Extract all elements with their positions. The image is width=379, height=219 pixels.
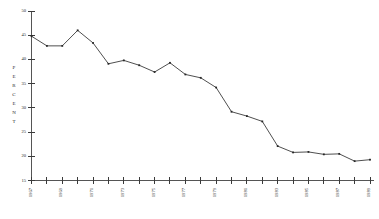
data-point-marker — [169, 62, 171, 64]
y-axis-title-char: E — [12, 101, 15, 106]
data-point-marker — [31, 35, 33, 37]
data-point-marker — [46, 45, 48, 47]
y-tick-label: 45 — [21, 32, 26, 37]
x-tick-label: 1987 — [335, 187, 340, 197]
x-tick-label: 1977 — [181, 187, 186, 197]
x-tick-label: 1973 — [120, 187, 125, 197]
chart-page: 1520253035404550 PERCENT 196719691971197… — [0, 0, 379, 219]
x-tick-label: 1981 — [243, 187, 248, 197]
data-point-marker — [261, 121, 263, 123]
x-tick-label: 1971 — [89, 187, 94, 197]
data-point-marker — [246, 115, 248, 117]
y-tick-label: 30 — [21, 105, 26, 110]
y-axis-title: PERCENT — [12, 65, 16, 124]
x-tick-label: 1967 — [28, 187, 33, 197]
data-point-marker — [338, 153, 340, 155]
data-point-marker — [200, 77, 202, 79]
y-axis-title-char: T — [12, 119, 15, 124]
y-axis-title-char: E — [12, 74, 15, 79]
x-tick-label: 1983 — [274, 187, 279, 197]
y-tick-label: 20 — [21, 153, 26, 158]
line-chart: 1520253035404550 PERCENT 196719691971197… — [0, 0, 379, 219]
data-point-marker — [231, 111, 233, 113]
x-tick-label: 1989 — [366, 187, 371, 197]
y-axis-title-char: R — [12, 83, 16, 88]
y-axis-title-char: P — [13, 65, 16, 70]
data-point-marker — [277, 145, 279, 147]
data-point-marker — [292, 152, 294, 154]
data-point-marker — [92, 42, 94, 44]
x-tick-label: 1975 — [151, 187, 156, 197]
y-tick-label: 40 — [21, 56, 26, 61]
y-tick-label: 15 — [21, 178, 26, 183]
data-point-marker — [154, 71, 156, 73]
x-axis-tick-labels: 1967196919711973197519771979198119831985… — [28, 187, 372, 197]
y-axis-ticks: 1520253035404550 — [21, 8, 35, 183]
data-point-marker — [108, 63, 110, 65]
y-tick-label: 25 — [21, 129, 26, 134]
y-axis-title-char: C — [12, 92, 16, 97]
data-point-marker — [138, 64, 140, 66]
y-tick-label: 50 — [21, 8, 26, 13]
y-axis-title-char: N — [12, 110, 16, 115]
x-tick-label: 1985 — [304, 187, 309, 197]
data-point-marker — [308, 151, 310, 153]
x-tick-label: 1969 — [58, 187, 63, 197]
data-markers — [31, 29, 371, 162]
data-point-marker — [323, 153, 325, 155]
data-line-percent — [32, 30, 371, 161]
data-point-marker — [184, 74, 186, 76]
y-tick-label: 35 — [21, 81, 26, 86]
data-point-marker — [354, 160, 356, 162]
x-tick-label: 1979 — [212, 187, 217, 197]
data-point-marker — [123, 60, 125, 62]
data-point-marker — [369, 159, 371, 161]
data-point-marker — [77, 29, 79, 31]
data-point-marker — [215, 87, 217, 89]
data-point-marker — [61, 45, 63, 47]
